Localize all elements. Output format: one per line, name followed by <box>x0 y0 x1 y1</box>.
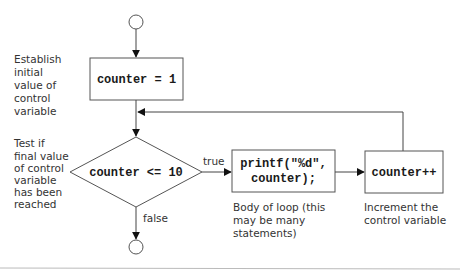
annotation-init: Establish initial value of control varia… <box>14 53 61 117</box>
increment-node-label: counter++ <box>372 166 437 180</box>
svg-text:control variable: control variable <box>364 214 446 226</box>
bottom-divider <box>0 268 460 269</box>
svg-text:variable: variable <box>14 105 56 117</box>
body-node-line-2: counter); <box>251 172 316 186</box>
edge-increment-to-condition <box>138 112 403 151</box>
svg-text:control: control <box>14 92 50 104</box>
annotation-body: Body of loop (this may be many statement… <box>233 201 325 239</box>
body-node: printf("%d", counter); <box>232 150 335 192</box>
edge-label-false: false <box>143 212 168 224</box>
svg-text:of control: of control <box>14 162 64 174</box>
svg-text:variable: variable <box>14 174 56 186</box>
condition-node-label: counter <= 10 <box>89 166 183 180</box>
annotation-condition: Test if final value of control variable … <box>13 137 69 210</box>
init-node: counter = 1 <box>90 58 183 100</box>
body-node-line-1: printf("%d", <box>240 157 326 171</box>
start-node-icon <box>129 15 143 29</box>
increment-node: counter++ <box>365 151 443 193</box>
svg-text:initial: initial <box>14 66 43 78</box>
svg-text:Body of loop (this: Body of loop (this <box>233 201 325 213</box>
end-node-icon <box>129 240 143 254</box>
svg-text:reached: reached <box>14 198 57 210</box>
svg-text:value of: value of <box>14 79 56 91</box>
edge-label-true: true <box>203 155 225 167</box>
condition-node: counter <= 10 <box>70 137 202 207</box>
annotation-increment: Increment the control variable <box>364 201 446 226</box>
svg-text:Increment the: Increment the <box>364 201 438 213</box>
svg-text:has been: has been <box>14 186 62 198</box>
svg-text:final value: final value <box>14 150 69 162</box>
svg-text:Establish: Establish <box>14 53 61 65</box>
init-node-label: counter = 1 <box>97 73 176 87</box>
svg-text:may be many: may be many <box>233 214 305 226</box>
svg-text:statements): statements) <box>233 227 297 239</box>
flowchart-canvas: counter = 1 counter <= 10 true printf("%… <box>0 0 462 275</box>
svg-text:Test if: Test if <box>13 137 45 149</box>
